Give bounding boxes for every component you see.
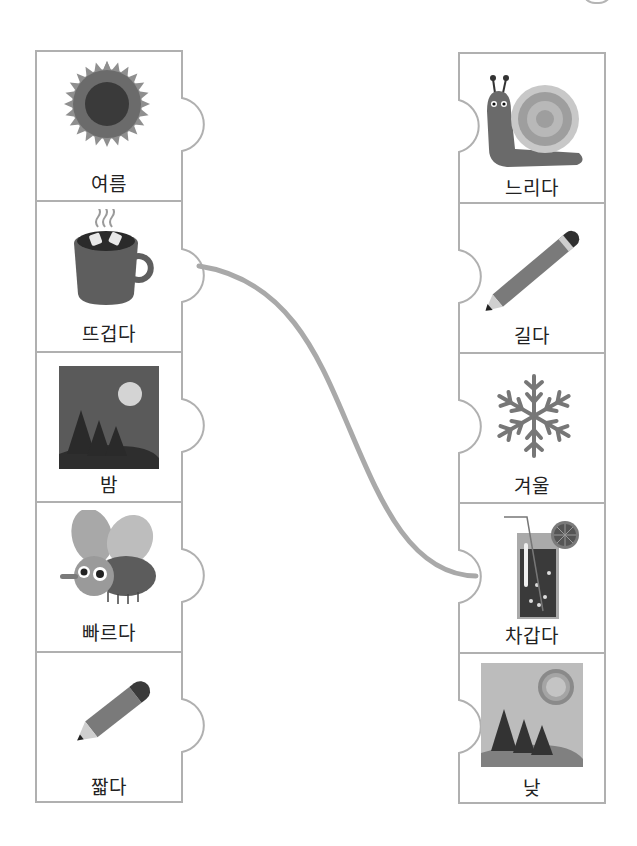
right-card-day[interactable]: 낮: [459, 653, 605, 803]
card-label: 밤: [36, 470, 182, 497]
card-label: 짧다: [36, 772, 182, 799]
sun-icon: [64, 61, 150, 147]
right-card-slow[interactable]: 느리다: [459, 53, 605, 203]
card-label: 차갑다: [459, 621, 605, 648]
card-label: 빠르다: [36, 618, 182, 645]
short-pencil-icon: [66, 674, 156, 754]
left-card-fast[interactable]: 빠르다: [36, 502, 182, 652]
card-label: 낮: [459, 773, 605, 800]
iced-drink-icon: [477, 511, 587, 623]
day-forest-sun-icon: [481, 663, 583, 767]
card-label: 여름: [36, 169, 182, 196]
left-card-hot[interactable]: 뜨겁다: [36, 201, 182, 352]
hot-cocoa-mug-icon: [72, 209, 156, 309]
left-card-short[interactable]: 짧다: [36, 652, 182, 802]
card-label: 뜨겁다: [36, 319, 182, 346]
matching-worksheet: 여름 뜨겁다 밤: [0, 0, 637, 846]
long-pencil-icon: [473, 217, 593, 325]
night-forest-moon-icon: [59, 366, 159, 469]
card-label: 길다: [459, 321, 605, 348]
connection-line[interactable]: [199, 266, 476, 576]
left-card-night[interactable]: 밤: [36, 352, 182, 502]
card-label: 겨울: [459, 471, 605, 498]
snowflake-icon: [489, 371, 579, 461]
right-card-cold[interactable]: 차갑다: [459, 503, 605, 653]
snail-icon: [487, 71, 587, 169]
fly-icon: [54, 510, 164, 606]
right-card-winter[interactable]: 겨울: [459, 353, 605, 503]
right-card-long[interactable]: 길다: [459, 203, 605, 353]
card-label: 느리다: [459, 173, 605, 200]
left-card-summer[interactable]: 여름: [36, 51, 182, 201]
